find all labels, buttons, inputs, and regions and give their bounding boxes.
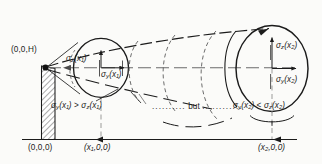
inequality-x2-operator: < [257,101,262,110]
sigma-y-x2-argument: (x₂) [284,75,297,84]
inequality-x1-operator: > [74,101,79,110]
plume-diagram-figure: (0,0,H) σz(x₁) σy(x₁) σy(x₁) > σz(x₁) ..… [0,0,322,164]
but-leader-left: .......... [152,102,186,111]
inequality-x1-right-argument: (x₁) [89,101,102,110]
plume-centerline [48,65,300,71]
sigma-z-x1-label: σz(x₁) [66,55,87,63]
sigma-y-x1-label: σy(x₁) [101,71,122,79]
station-x2-label: (x₂,0,0) [258,144,285,152]
ground-axis [22,137,297,143]
sigma-z-x2-argument: (x₂) [284,41,297,50]
but-leader-line [163,118,232,127]
sigma-z-x2-label: σz(x₂) [276,42,297,50]
inequality-x2: σy(x₂) < σz(x₂) [233,102,285,110]
station-x1-label: (x₁,0,0) [84,144,111,152]
inequality-x1: σy(x₁) > σz(x₁) [51,102,102,110]
diagram-canvas [0,0,322,164]
sigma-y-x1-argument: (x₁) [109,70,122,79]
origin-label: (0,0,0) [28,144,52,152]
inequality-x2-left-argument: (x₂) [241,101,254,110]
source-point-label: (0,0,H) [11,46,37,54]
inequality-x2-right-argument: (x₂) [272,101,285,110]
inequality-x1-left-argument: (x₁) [59,101,72,110]
x1-axis-arrowhead [96,137,103,143]
sigma-axes-x2 [271,38,296,140]
but-connector: .......... but ............ [152,103,243,111]
but-text: but [188,102,200,111]
sigma-y-x2-label: σy(x₂) [276,76,297,84]
sigma-z-x1-argument: (x₁) [74,54,87,63]
x2-axis-arrowhead [273,137,281,143]
